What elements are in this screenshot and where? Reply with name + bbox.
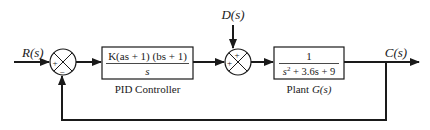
disturbance-label: D(s) — [220, 7, 244, 22]
summing-junction-1: + − — [50, 49, 76, 77]
plant-denominator: s2 + 3.6s + 9 — [283, 65, 335, 77]
output-label: C(s) — [385, 45, 407, 60]
block-diagram: R(s) + − K(as + 1) (bs + 1) s PID Contro… — [0, 0, 430, 130]
plant-block: 1 s2 + 3.6s + 9 Plant G(s) — [274, 47, 344, 96]
output-signal: C(s) — [344, 45, 419, 62]
disturbance-signal: D(s) — [220, 7, 244, 48]
input-label: R(s) — [21, 45, 44, 60]
pid-numerator: K(as + 1) (bs + 1) — [108, 50, 187, 63]
pid-label: PID Controller — [115, 83, 181, 95]
sum2-left-plus-sign: + — [227, 58, 232, 68]
pid-denominator: s — [145, 65, 149, 77]
plant-label: Plant G(s) — [287, 83, 332, 96]
sum1-plus-sign: + — [53, 58, 58, 68]
pid-controller-block: K(as + 1) (bs + 1) s PID Controller — [102, 47, 193, 95]
plant-numerator: 1 — [306, 50, 312, 62]
sum2-top-plus-sign: + — [235, 50, 240, 60]
summing-junction-2: + + — [225, 49, 251, 75]
sum1-minus-sign: − — [60, 67, 65, 77]
input-signal: R(s) — [14, 45, 49, 62]
